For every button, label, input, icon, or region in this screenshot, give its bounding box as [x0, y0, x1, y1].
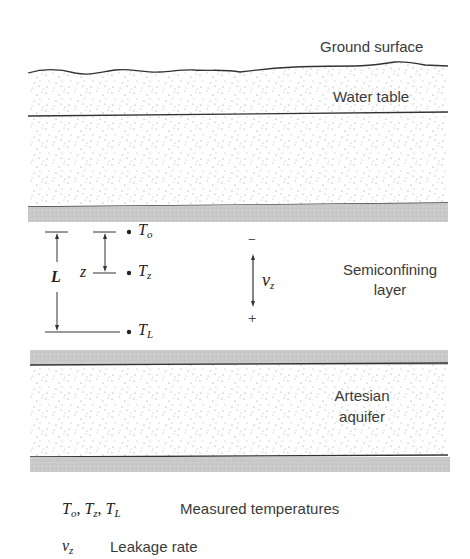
z-arrow-down-head [103, 266, 107, 272]
water-table-label: Water table [333, 88, 409, 105]
T-L-point [127, 330, 131, 334]
artesian-label-line1: Artesian [322, 385, 402, 406]
clay-band-base [30, 457, 450, 472]
artesian-label-line2: aquifer [322, 406, 402, 427]
semiconfining-label-line2: layer [340, 280, 440, 300]
ground-surface-label: Ground surface [320, 38, 423, 55]
legend-symbol-temperatures: To, Tz, TL [62, 500, 121, 519]
artesian-aquifer-label: Artesian aquifer [322, 385, 402, 427]
T-z-point [127, 271, 131, 275]
L-arrow-down-head [55, 325, 59, 331]
T-z-label: Tz [138, 262, 151, 281]
L-label: L [51, 268, 61, 286]
vz-arrow-down-head [251, 301, 255, 307]
T-L-label: TL [138, 321, 153, 340]
vz-label: vz [262, 270, 274, 291]
vz-arrow-up-head [251, 254, 255, 260]
legend-description-leakage: Leakage rate [110, 538, 198, 555]
vz-plus-sign: + [248, 310, 256, 327]
z-arrow-up-head [103, 233, 107, 239]
z-label: z [80, 263, 86, 281]
T-o-point [127, 230, 131, 234]
L-arrow-up-head [55, 233, 59, 239]
legend-symbol-leakage: vz [62, 537, 73, 556]
legend-description-temperatures: Measured temperatures [180, 500, 339, 517]
T-o-label: To [138, 221, 152, 240]
semiconfining-label-line1: Semiconfining [340, 260, 440, 280]
semiconfining-label: Semiconfining layer [340, 260, 440, 300]
unconfined-aquifer [28, 112, 448, 207]
vz-minus-sign: − [248, 232, 256, 248]
